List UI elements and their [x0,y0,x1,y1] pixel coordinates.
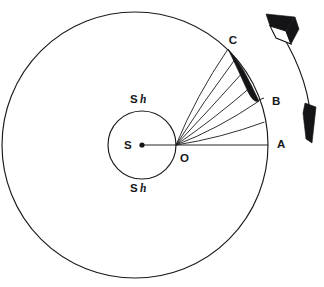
trajectory-ray-1 [176,122,265,145]
label-shell-bottom-s: S [130,182,138,194]
rotation-arrow-head-bottom [303,103,316,143]
label-point-b: B [272,95,281,107]
trajectory-ray-3 [176,86,252,145]
label-shell-bottom-h: h [140,182,146,194]
figure-root: C B A S O S h S h [0,0,324,287]
rotation-arrow-head-top [266,14,299,44]
orbital-diagram-svg: C B A S O S h S h [0,0,324,287]
center-dot-s [139,142,144,147]
label-shell-top-s: S [130,93,138,105]
label-shell-top-h: h [140,93,146,105]
label-point-a: A [277,138,286,150]
label-origin-o: O [180,152,189,164]
label-point-c: C [229,34,238,46]
label-center-s: S [124,139,132,151]
trajectory-ray-4 [176,71,244,145]
trajectory-ray-2 [176,101,259,145]
